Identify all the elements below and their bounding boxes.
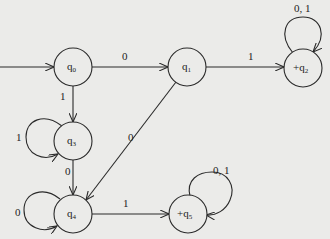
state-q3: q3 [54, 122, 92, 160]
edge-label-q2-self: 0, 1 [294, 2, 311, 14]
state-q1: q1 [168, 48, 206, 86]
edge-label-q5-self: 0, 1 [213, 164, 230, 176]
edge-label-q1-q4: 0 [128, 131, 134, 143]
self-loop-q2 [285, 17, 321, 53]
edge-label-q4-q5: 1 [123, 197, 129, 209]
edge-label-q0-q3: 1 [60, 90, 66, 102]
state-q2: +q2 [284, 49, 322, 87]
edge-label-q4-self: 0 [15, 206, 21, 218]
edge-label-q3-q4: 0 [65, 165, 71, 177]
state-q4: q4 [54, 195, 92, 233]
edge-label-q0-q1: 0 [122, 50, 128, 62]
automaton-diagram: 0 1 1 0 0 1 0, 1 1 0 0, 1 q0 q1 +q2 q3 q… [0, 0, 330, 239]
edge-label-q1-q2: 1 [248, 50, 254, 62]
edge-label-q3-self: 1 [16, 131, 22, 143]
state-q5: +q5 [169, 195, 207, 233]
state-q0: q0 [54, 48, 92, 86]
